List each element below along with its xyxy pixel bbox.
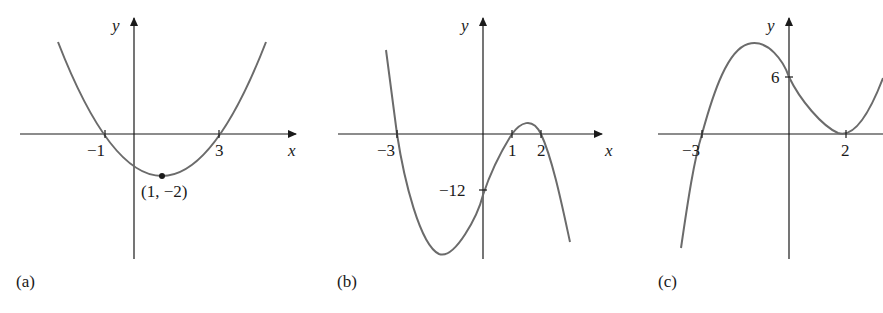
tick-label-a-3: 3 [215,141,224,160]
tick-label-a-neg1: −1 [87,141,105,160]
cubic-curve-c [681,43,883,248]
chart-c: y −3 2 6 (c) [658,16,883,291]
tick-label-b-2: 2 [537,141,546,160]
y-label-b: y [459,16,469,35]
panel-label-b: (b) [337,272,357,291]
panel-label-a: (a) [16,272,35,291]
vertex-label-a: (1, −2) [141,182,187,201]
figure: y x −1 3 (1, −2) (a) y x −3 1 2 −12 (b) … [0,0,883,313]
x-label-b: x [604,141,613,160]
tick-label-c-2: 2 [841,141,850,160]
y-label-c: y [765,16,775,35]
vertex-point-a [159,173,165,179]
x-label-a: x [287,141,296,160]
panel-label-c: (c) [658,272,677,291]
tick-label-b-1: 1 [508,141,517,160]
y-label-a: y [110,16,120,35]
chart-b: y x −3 1 2 −12 (b) [337,16,613,291]
tick-label-b-neg12: −12 [439,181,466,200]
chart-a: y x −1 3 (1, −2) (a) [16,16,296,291]
tick-label-b-neg3: −3 [377,141,395,160]
tick-label-c-neg3: −3 [682,141,700,160]
tick-label-c-6: 6 [771,68,780,87]
